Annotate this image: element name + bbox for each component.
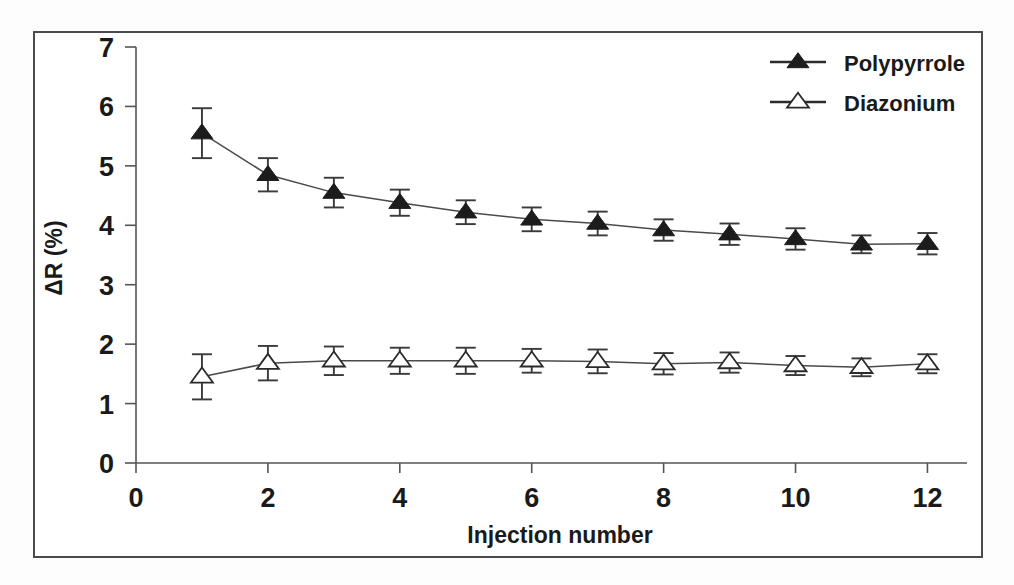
legend-entry-label: Polypyrrole <box>844 51 965 76</box>
y-axis-tick-label: 4 <box>99 211 114 241</box>
y-axis-tick-label: 7 <box>99 33 114 63</box>
y-axis-tick-label: 0 <box>99 449 114 479</box>
data-point-marker <box>850 235 872 250</box>
data-point-marker <box>719 225 741 240</box>
data-point-marker <box>521 351 543 366</box>
data-point-marker <box>785 230 807 245</box>
x-axis-title: Injection number <box>467 522 652 548</box>
x-axis-tick-label: 0 <box>128 483 143 513</box>
x-axis-tick-label: 6 <box>524 483 539 513</box>
x-axis-tick-label: 12 <box>912 483 942 513</box>
data-point-marker <box>587 214 609 229</box>
x-axis: 024681012 <box>128 463 967 513</box>
y-axis-title: ΔR (%) <box>41 220 67 295</box>
chart-legend: PolypyrroleDiazonium <box>770 51 965 116</box>
y-axis-tick-label: 1 <box>99 390 114 420</box>
data-series-group <box>191 108 938 399</box>
data-point-marker <box>323 351 345 366</box>
data-point-marker <box>916 354 938 369</box>
legend-marker-icon <box>787 93 809 108</box>
data-point-marker <box>257 354 279 369</box>
x-axis-tick-label: 2 <box>260 483 275 513</box>
legend-entry: Diazonium <box>770 91 955 116</box>
series-line <box>202 133 927 244</box>
data-point-marker <box>587 352 609 367</box>
y-axis-tick-label: 3 <box>99 271 114 301</box>
series-diazonium <box>191 346 938 399</box>
y-axis-tick-label: 5 <box>99 152 114 182</box>
line-chart: 01234567 024681012 PolypyrroleDiazonium … <box>0 0 1014 585</box>
y-axis: 01234567 <box>99 33 136 479</box>
legend-marker-icon <box>787 53 809 68</box>
figure-root: 01234567 024681012 PolypyrroleDiazonium … <box>0 0 1014 585</box>
x-axis-tick-label: 4 <box>392 483 407 513</box>
data-point-marker <box>191 124 213 139</box>
data-point-marker <box>653 354 675 369</box>
data-point-marker <box>257 165 279 180</box>
data-point-marker <box>850 358 872 373</box>
series-polypyrrole <box>191 108 938 254</box>
y-axis-tick-label: 2 <box>99 330 114 360</box>
data-point-marker <box>785 356 807 371</box>
data-point-marker <box>455 351 477 366</box>
series-line <box>202 361 927 377</box>
legend-entry-label: Diazonium <box>844 91 955 116</box>
x-axis-tick-label: 10 <box>781 483 811 513</box>
data-point-marker <box>389 351 411 366</box>
data-point-marker <box>653 221 675 236</box>
y-axis-tick-label: 6 <box>99 92 114 122</box>
x-axis-tick-label: 8 <box>656 483 671 513</box>
data-point-marker <box>521 210 543 225</box>
legend-entry: Polypyrrole <box>770 51 965 76</box>
data-point-marker <box>719 353 741 368</box>
data-point-marker <box>916 234 938 249</box>
